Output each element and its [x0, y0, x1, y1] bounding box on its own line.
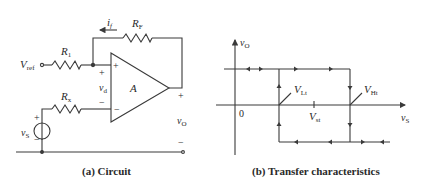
arrow-bot-4 — [380, 140, 384, 145]
vht-pointer — [350, 93, 362, 105]
svg-text:VHt: VHt — [364, 83, 378, 97]
svg-text:R1: R1 — [60, 45, 72, 59]
svg-text:RF: RF — [131, 17, 143, 31]
circuit-labels: if RF R1 Vref Rx vS + − + vd − + − A + v… — [20, 16, 187, 178]
vo-plus: + — [178, 90, 184, 101]
arrow-top-3 — [329, 67, 333, 72]
arrow-vlt-up-1 — [277, 84, 282, 88]
svg-text:vS: vS — [401, 112, 409, 125]
opamp-plus-input: + — [113, 60, 119, 71]
transfer-plot — [216, 40, 405, 155]
vd-minus: − — [99, 97, 105, 108]
vlt-pointer — [279, 93, 291, 105]
arrow-vht-down-1 — [348, 86, 353, 90]
svg-text:Vref: Vref — [20, 58, 35, 72]
svg-text:vS: vS — [21, 127, 29, 140]
arrow-bot-1 — [294, 140, 298, 145]
rx-resistor — [52, 105, 81, 113]
arrow-top-left — [246, 67, 250, 72]
diagram-canvas: if RF R1 Vref Rx vS + − + vd − + − A + v… — [0, 0, 422, 191]
junction-node — [91, 63, 94, 66]
svg-text:vO: vO — [177, 115, 187, 128]
transfer-labels: vO vS 0 VLt VHt Vst (b) Transfer charact… — [239, 37, 409, 178]
arrow-bot-2 — [328, 140, 332, 145]
svg-text:vO: vO — [240, 37, 250, 50]
r1-resistor — [52, 61, 81, 69]
opamp-gain-label: A — [129, 82, 137, 94]
svg-text:VLt: VLt — [294, 83, 307, 97]
vref-terminal — [40, 63, 43, 66]
circuit-caption: (a) Circuit — [82, 165, 131, 178]
opamp-triangle — [111, 53, 169, 122]
arrow-vlt-up-2 — [277, 122, 282, 126]
output-terminal-bottom — [182, 151, 185, 154]
arrow-top-2 — [294, 67, 298, 72]
vd-plus: + — [99, 67, 105, 78]
transfer-caption: (b) Transfer characteristics — [252, 165, 380, 178]
svg-text:Rx: Rx — [60, 90, 72, 104]
vs-plus: + — [34, 112, 40, 123]
svg-text:if: if — [107, 16, 113, 30]
arrow-bot-3 — [361, 140, 365, 145]
origin-label: 0 — [239, 108, 244, 119]
rf-resistor — [123, 34, 152, 42]
arrow-vht-down-2 — [348, 123, 353, 127]
ground-node — [41, 151, 44, 154]
svg-text:vd: vd — [99, 82, 107, 95]
arrow-top-1 — [259, 67, 263, 72]
svg-text:Vst: Vst — [309, 110, 320, 124]
vs-minus: − — [34, 134, 40, 145]
opamp-minus-input: − — [114, 104, 120, 115]
vo-minus: − — [178, 137, 184, 148]
